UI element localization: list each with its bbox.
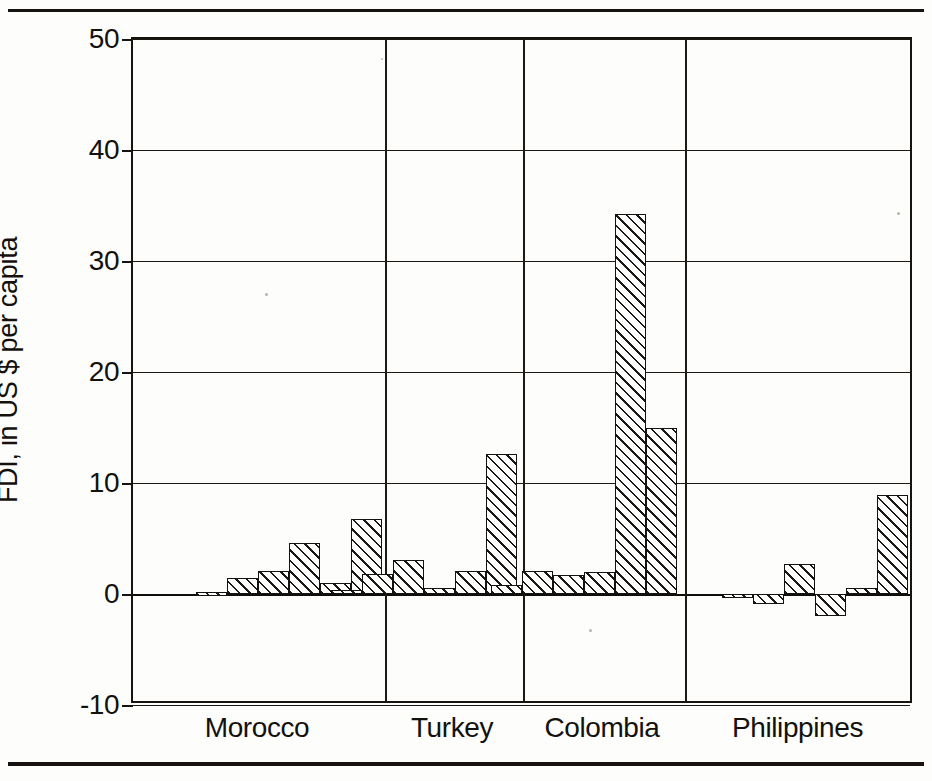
group-separator-2 (523, 39, 525, 701)
bar-philippines-3 (784, 564, 815, 594)
bar-philippines-4 (815, 594, 846, 616)
top-rule (8, 9, 924, 12)
bar-philippines-5 (846, 588, 877, 594)
x-group-label-turkey: Turkey (383, 712, 521, 744)
scan-speck (381, 58, 383, 60)
bar-colombia-1 (491, 585, 522, 594)
gridline-y-30 (133, 261, 910, 262)
gridline-y-20 (133, 372, 910, 373)
gridline-y-10 (133, 483, 910, 484)
bar-morocco-3 (258, 571, 289, 594)
bar-colombia-2 (522, 571, 553, 594)
gridline-y-40 (133, 150, 910, 151)
y-tick-30 (122, 261, 133, 263)
y-tick-40 (122, 150, 133, 152)
y-tick-label-0: 0 (104, 578, 119, 610)
bottom-rule (8, 762, 924, 766)
bar-colombia-6 (646, 428, 677, 595)
y-tick-label-40: 40 (89, 134, 119, 166)
figure-canvas: FDI, in US $ per capita 50403020100-10 M… (0, 0, 932, 781)
bar-morocco-1 (196, 592, 227, 596)
gridline-y-0 (133, 594, 910, 596)
scan-speck (265, 293, 268, 296)
y-tick-label-50: 50 (89, 23, 119, 55)
group-separator-3 (685, 39, 687, 701)
bar-colombia-3 (553, 575, 584, 594)
gridline-y--10 (133, 705, 910, 706)
x-group-label-colombia: Colombia (521, 712, 683, 744)
y-tick--10 (122, 705, 133, 707)
y-tick-label-30: 30 (89, 245, 119, 277)
scan-speck (897, 212, 900, 215)
x-group-label-philippines: Philippines (683, 712, 912, 744)
bar-morocco-2 (227, 578, 258, 594)
bar-turkey-1 (331, 590, 362, 594)
bar-turkey-2 (362, 574, 393, 594)
bar-turkey-5 (455, 571, 486, 594)
y-tick-label--10: -10 (80, 689, 119, 721)
y-tick-50 (122, 39, 133, 41)
y-axis-title: FDI, in US $ per capita (0, 237, 24, 503)
bar-colombia-4 (584, 572, 615, 594)
gridline-y-50 (133, 39, 910, 40)
bar-colombia-5 (615, 214, 646, 594)
bar-philippines-1 (722, 594, 753, 598)
bar-turkey-6 (486, 454, 517, 594)
y-tick-20 (122, 372, 133, 374)
y-tick-label-10: 10 (89, 467, 119, 499)
y-tick-10 (122, 483, 133, 485)
plot-area: 50403020100-10 (131, 37, 912, 703)
y-tick-0 (122, 594, 133, 596)
bar-philippines-6 (877, 495, 908, 594)
bar-morocco-4 (289, 543, 320, 594)
bar-turkey-4 (424, 588, 455, 594)
x-group-label-morocco: Morocco (131, 712, 383, 744)
scan-speck (589, 629, 592, 632)
bar-philippines-2 (753, 594, 784, 604)
y-tick-label-20: 20 (89, 356, 119, 388)
group-separator-1 (385, 39, 387, 701)
bar-turkey-3 (393, 560, 424, 594)
